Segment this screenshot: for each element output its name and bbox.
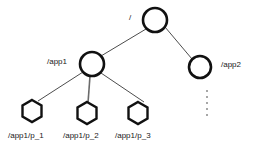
edge-app1-p2 — [88, 76, 90, 103]
edge-root-app2 — [165, 27, 192, 59]
ellipsis-dot — [206, 114, 208, 116]
node-p2[interactable] — [78, 102, 97, 124]
node-p3[interactable] — [129, 102, 148, 124]
node-label-p2: /app1/p_2 — [63, 131, 99, 141]
ellipsis-dot — [206, 90, 208, 92]
node-app1[interactable] — [80, 52, 104, 76]
vertical-ellipsis-icon — [204, 90, 210, 116]
edge-app1-p3 — [101, 73, 144, 102]
ellipsis-dot — [206, 102, 208, 104]
node-label-app1: /app1 — [47, 57, 67, 67]
edge-root-app1 — [101, 29, 146, 56]
node-app2[interactable] — [189, 56, 211, 78]
node-label-p1: /app1/p_1 — [8, 131, 44, 141]
node-label-app2: /app2 — [221, 60, 241, 70]
ellipsis-dot — [206, 108, 208, 110]
node-label-p3: /app1/p_3 — [115, 131, 151, 141]
node-root[interactable] — [143, 8, 167, 32]
node-p1[interactable] — [23, 100, 42, 122]
edge-app1-p1 — [38, 72, 83, 101]
node-label-root: / — [129, 13, 131, 23]
tree-diagram: / /app1 /app2 /app1/p_1 /app1/p_2 /app1/… — [0, 0, 263, 155]
ellipsis-dot — [206, 96, 208, 98]
